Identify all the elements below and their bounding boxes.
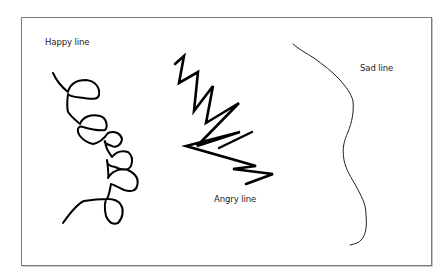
line-drawings (0, 0, 448, 277)
happy-line (53, 73, 138, 224)
angry-line (175, 56, 273, 184)
sad-line (293, 44, 366, 245)
